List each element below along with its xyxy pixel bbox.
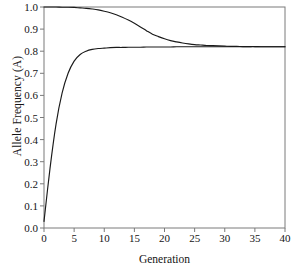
x-axis-tick-label: 40	[265, 232, 298, 244]
y-axis-title: Allele Frequency (A)	[11, 6, 23, 206]
x-axis-tick-labels: 0510152025303540	[0, 232, 298, 250]
data-series-line-0	[44, 7, 285, 47]
chart-figure: 0.00.10.20.30.40.50.60.70.80.91.0 051015…	[0, 0, 298, 272]
data-series-line-1	[44, 47, 285, 222]
x-axis-title: Generation	[44, 253, 285, 265]
plot-frame	[44, 7, 285, 228]
